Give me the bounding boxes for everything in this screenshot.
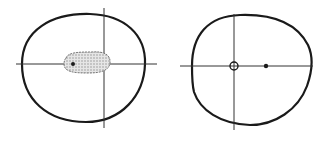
left-shaded-region (64, 52, 110, 73)
right-point (264, 64, 268, 68)
diagram-figure (0, 0, 315, 142)
diagram-canvas (0, 0, 315, 142)
left-point (71, 62, 75, 66)
right-boundary-ellipse (192, 15, 312, 125)
left-panel (16, 8, 157, 128)
right-panel (180, 14, 313, 130)
